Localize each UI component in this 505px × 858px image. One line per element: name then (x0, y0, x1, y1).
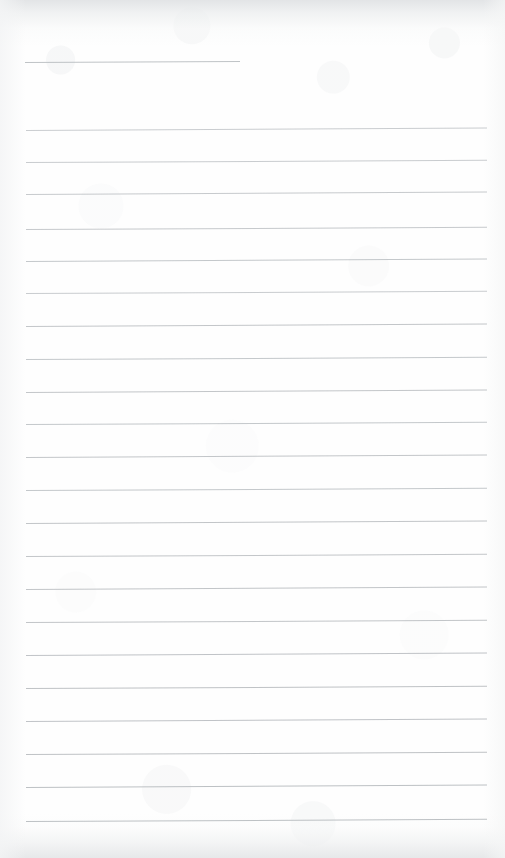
ruled-lines-layer (0, 0, 505, 858)
rule-line (26, 620, 487, 623)
rule-line (26, 192, 487, 195)
rule-line (26, 227, 487, 230)
rule-line (26, 785, 487, 788)
rule-line (26, 521, 487, 524)
scanned-page (0, 0, 505, 858)
rule-line (26, 128, 487, 131)
rule-line (26, 259, 487, 262)
rule-line (26, 291, 487, 294)
rule-line (26, 686, 487, 689)
rule-line (26, 488, 487, 491)
rule-line (26, 455, 487, 458)
rule-line (26, 819, 487, 822)
rule-line (26, 587, 487, 590)
rule-line (26, 719, 487, 722)
rule-line (26, 324, 487, 327)
rule-line (26, 422, 487, 425)
rule-line (26, 390, 487, 393)
rule-line (26, 653, 487, 656)
short-rule-line (25, 61, 240, 63)
rule-line (26, 554, 487, 557)
rule-line (26, 752, 487, 755)
rule-line (26, 357, 487, 360)
rule-line (26, 160, 487, 163)
